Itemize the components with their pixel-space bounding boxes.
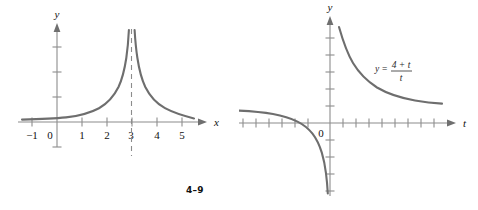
figure-4-10: 0 t y y = 4 + t t 4–10 — [239, 0, 478, 210]
x-tick-label-neg1: −1 — [26, 129, 38, 141]
curve-left-branch-4-9 — [22, 30, 129, 120]
equation-lhs: y — [374, 64, 380, 74]
x-axis-arrowhead-4-9 — [198, 119, 207, 126]
figure-4-9: −1 0 1 2 3 4 5 x y 4–9 — [0, 0, 239, 210]
x-tick-label-1: 1 — [79, 129, 85, 141]
equation-equals: = — [382, 64, 387, 74]
equation-numerator: 4 + t — [392, 60, 411, 70]
x-tick-label-2: 2 — [104, 129, 110, 141]
y-axis-arrowhead-4-10 — [327, 16, 334, 25]
curve-upper-branch-4-10 — [339, 27, 442, 104]
plot-4-9: −1 0 1 2 3 4 5 x y — [0, 0, 239, 210]
equation-denominator: t — [400, 73, 403, 83]
curve-right-branch-4-9 — [135, 30, 194, 118]
equation-label-4-10: y = 4 + t t — [374, 60, 412, 83]
t-axis-label-4-10: t — [463, 117, 467, 129]
x-axis-label-4-9: x — [213, 116, 219, 128]
y-axis-label-4-9: y — [54, 8, 60, 20]
figure-caption-4-9: 4–9 — [186, 185, 204, 195]
x-tick-label-4: 4 — [154, 129, 160, 141]
origin-label-4-10: 0 — [318, 127, 324, 139]
y-axis-label-4-10: y — [327, 1, 333, 13]
y-axis-arrowhead-4-9 — [54, 23, 61, 32]
plot-4-10: 0 t y y = 4 + t t — [239, 0, 478, 210]
t-axis-arrowhead-4-10 — [447, 120, 456, 127]
x-tick-label-5: 5 — [179, 129, 185, 141]
x-tick-label-0: 0 — [47, 129, 53, 141]
